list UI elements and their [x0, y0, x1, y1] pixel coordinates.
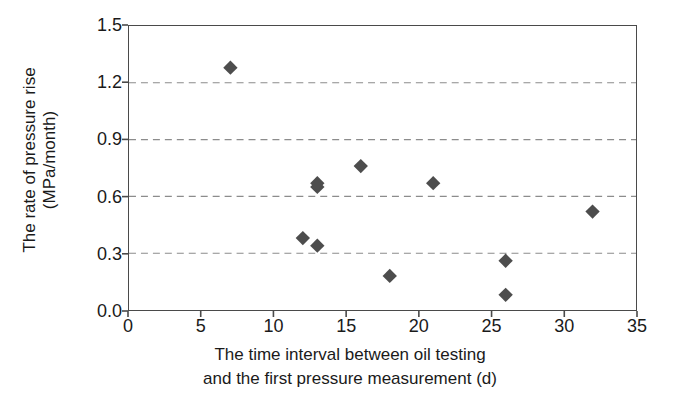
x-axis-title: The time interval between oil testing an…: [60, 343, 640, 391]
y-tick-label: 0.3: [76, 245, 122, 263]
y-axis-title-line2: (MPa/month): [40, 67, 60, 252]
y-tick-label: 0.6: [76, 188, 122, 206]
data-point-marker: [498, 288, 512, 302]
data-point-marker: [310, 238, 324, 252]
x-tick-label: 15: [316, 316, 376, 336]
x-tick-label: 25: [462, 316, 522, 336]
x-tick-label: 35: [607, 316, 667, 336]
plot-area: [128, 25, 637, 311]
x-tick-label: 20: [389, 316, 449, 336]
data-point-marker: [383, 269, 397, 283]
y-axis-title-line1: The rate of pressure rise: [20, 67, 40, 252]
y-tick-label: 1.5: [76, 16, 122, 34]
plot-canvas: [129, 26, 636, 310]
x-tick-label: 5: [171, 316, 231, 336]
y-tick-label: 1.2: [76, 73, 122, 91]
data-point-marker: [585, 204, 599, 218]
x-axis-tick-labels: 05101520253035: [0, 316, 675, 342]
scatter-chart-figure: The rate of pressure rise (MPa/month) 0.…: [0, 0, 675, 407]
x-axis-title-line1: The time interval between oil testing: [60, 343, 640, 367]
y-tick-label: 0.9: [76, 130, 122, 148]
data-point-marker: [223, 61, 237, 75]
data-point-marker: [426, 176, 440, 190]
x-tick-label: 30: [534, 316, 594, 336]
x-tick-label: 0: [98, 316, 158, 336]
data-point-marker: [498, 254, 512, 268]
data-point-marker: [296, 231, 310, 245]
x-axis-title-line2: and the first pressure measurement (d): [60, 367, 640, 391]
y-axis-title: The rate of pressure rise (MPa/month): [0, 0, 80, 320]
x-tick-label: 10: [243, 316, 303, 336]
data-point-marker: [354, 159, 368, 173]
